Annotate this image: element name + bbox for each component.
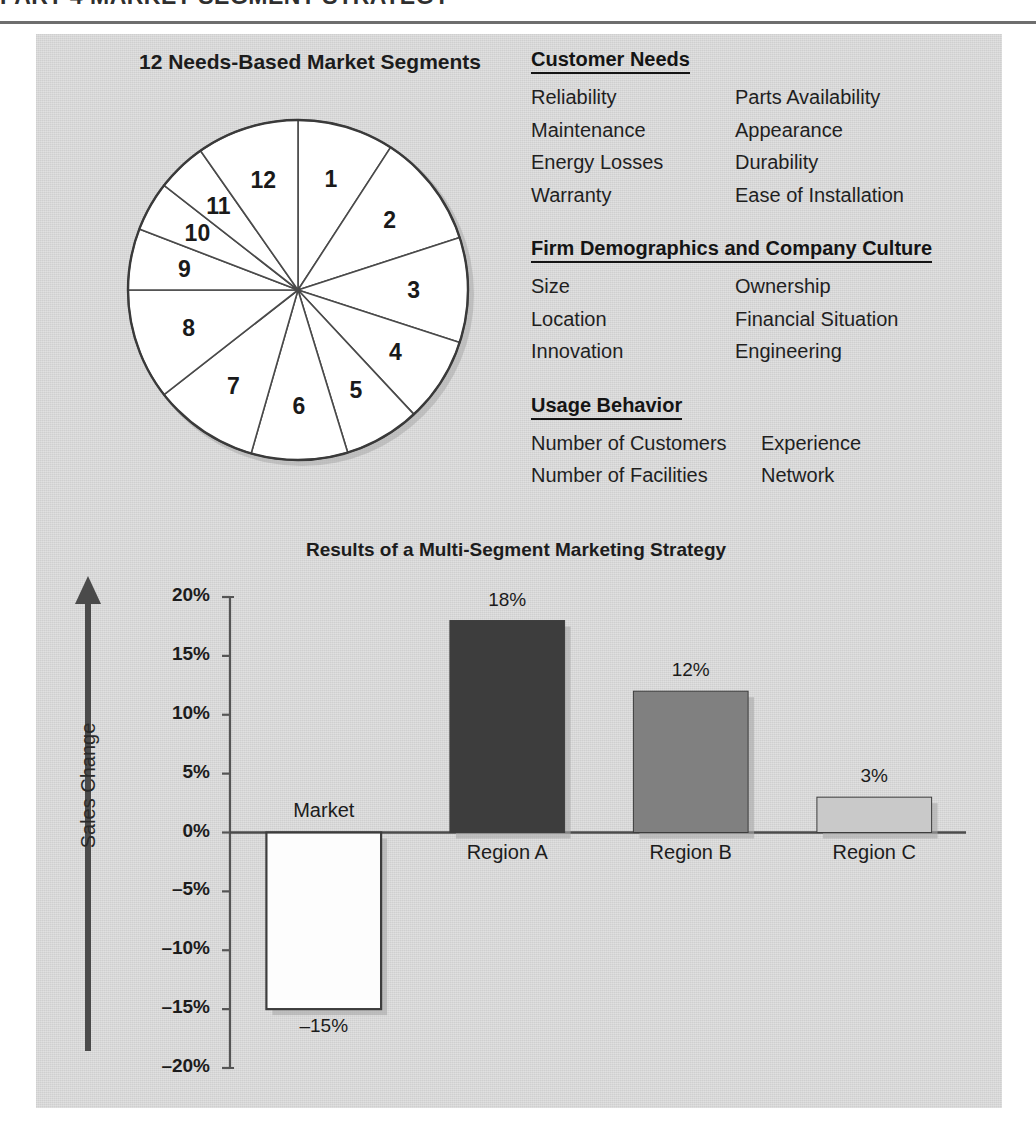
bar-value-label: 18%: [437, 589, 577, 611]
figure-panel: 12 Needs-Based Market Segments 123456789…: [36, 34, 1002, 1108]
x-axis-category-label: Region B: [611, 841, 771, 864]
y-axis-tick-label: –10%: [136, 937, 210, 959]
bar[interactable]: [266, 833, 381, 1010]
y-axis-tick-label: –15%: [136, 996, 210, 1018]
bar[interactable]: [817, 797, 932, 832]
x-axis-category-label: Market: [244, 799, 404, 822]
bar-chart: Sales Change 20%15%10%5%0%–5%–10%–15%–20…: [36, 34, 1002, 1108]
x-axis-category-label: Region C: [794, 841, 954, 864]
bar-value-label: 3%: [804, 765, 944, 787]
y-axis-tick-label: 10%: [136, 702, 210, 724]
header-divider: [0, 21, 1036, 24]
x-axis-category-label: Region A: [427, 841, 587, 864]
y-axis-tick-label: 15%: [136, 643, 210, 665]
y-axis-tick-label: –5%: [136, 878, 210, 900]
bar[interactable]: [633, 691, 748, 832]
chapter-header-text: PART 4 MARKET-SEGMENT STRATEGY: [0, 0, 450, 10]
y-axis-tick-label: 0%: [136, 820, 210, 842]
bar-value-label: –15%: [254, 1015, 394, 1037]
y-axis-tick-label: 20%: [136, 584, 210, 606]
bar[interactable]: [450, 621, 565, 833]
chapter-header: PART 4 MARKET-SEGMENT STRATEGY: [0, 0, 1036, 20]
y-axis-tick-label: –20%: [136, 1055, 210, 1077]
y-axis-tick-label: 5%: [136, 761, 210, 783]
bar-value-label: 12%: [621, 659, 761, 681]
figure-page: PART 4 MARKET-SEGMENT STRATEGY 12 Needs-…: [0, 0, 1036, 1131]
